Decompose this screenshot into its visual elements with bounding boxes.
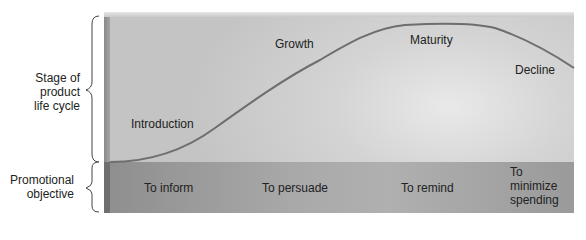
objective-label-minimize-spending: To minimize spending xyxy=(510,165,559,207)
stage-label-maturity: Maturity xyxy=(410,33,453,47)
objective-line: To xyxy=(510,165,559,179)
objective-label-inform: To inform xyxy=(144,181,193,195)
objective-line: To persuade xyxy=(262,181,328,195)
objective-label-persuade: To persuade xyxy=(262,181,328,195)
stage-label-growth: Growth xyxy=(275,37,314,51)
objective-line: spending xyxy=(510,193,559,207)
objective-label-remind: To remind xyxy=(401,181,454,195)
stage-label-decline: Decline xyxy=(515,63,555,77)
objective-line: minimize xyxy=(510,179,559,193)
stage-label-introduction: Introduction xyxy=(131,117,194,131)
objective-line: To remind xyxy=(401,181,454,195)
objective-line: To inform xyxy=(144,181,193,195)
